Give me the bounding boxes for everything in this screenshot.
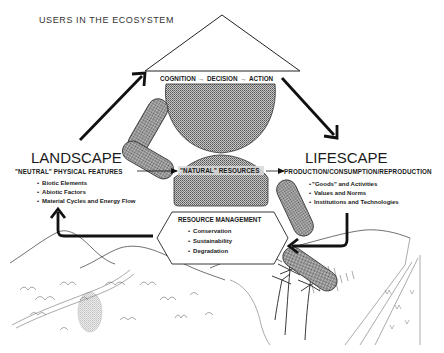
diagram-title: USERS IN THE ECOSYSTEM [39, 15, 174, 25]
landscape-bullet-1: •Biotic Elements [37, 180, 88, 186]
resource-management-box: RESOURCE MANAGEMENT •Conservation •Susta… [157, 212, 288, 264]
chain-arrow-2: → [240, 75, 246, 82]
landscape-block: LANDSCAPE "NEUTRAL" PHYSICAL FEATURES •B… [15, 149, 136, 204]
landscape-bullet-2: •Abiotic Factors [37, 189, 86, 195]
rm-bullet-2: •Sustainability [188, 238, 233, 244]
natural-resources-label: "NATURAL" RESOURCES [180, 167, 259, 174]
user-lower-body [174, 155, 268, 206]
resource-management-heading: RESOURCE MANAGEMENT [178, 216, 261, 223]
cognition-label: COGNITION [160, 75, 196, 82]
lifescape-bullet-1: •"Goods" and Activities [309, 181, 378, 187]
chain-arrow-1: → [198, 75, 204, 82]
lifescape-block: LIFESCAPE PRODUCTION/CONSUMPTION/REPRODU… [284, 149, 432, 205]
landscape-subheading: "NEUTRAL" PHYSICAL FEATURES [15, 168, 122, 175]
action-to-lifescape-arrow [282, 78, 334, 135]
decision-label: DECISION [207, 75, 238, 82]
rm-bullet-3: •Degradation [188, 248, 228, 254]
landscape-to-cognition-arrow [80, 76, 142, 140]
landscape-bullet-3: •Material Cycles and Energy Flow [37, 198, 136, 204]
lifescape-bullet-2: •Values and Norms [309, 190, 367, 196]
users-in-ecosystem-diagram: USERS IN THE ECOSYSTEM [0, 0, 444, 353]
action-label: ACTION [249, 75, 274, 82]
lifescape-bullet-3: •Institutions and Technologies [309, 199, 399, 205]
user-upper-body [165, 84, 275, 153]
decision-chain: COGNITION → DECISION → ACTION [160, 75, 274, 82]
lifescape-subheading: PRODUCTION/CONSUMPTION/REPRODUCTION [284, 168, 432, 175]
rm-bullet-1: •Conservation [188, 228, 232, 234]
landscape-heading: LANDSCAPE [31, 149, 122, 166]
lifescape-heading: LIFESCAPE [305, 149, 388, 166]
